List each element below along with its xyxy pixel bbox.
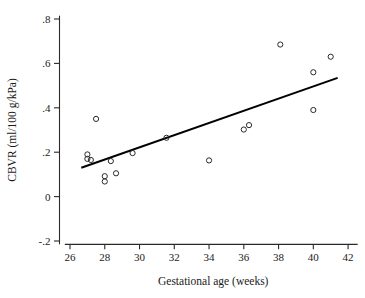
x-tick-label: 26 [65, 251, 77, 263]
x-tick-label: 42 [343, 251, 354, 263]
y-tick-label: .6 [42, 57, 51, 69]
x-tick-label: 40 [308, 251, 320, 263]
data-point [113, 171, 118, 176]
x-tick-label: 34 [204, 251, 216, 263]
x-tick-label: 28 [99, 251, 111, 263]
data-point [102, 179, 107, 184]
data-point [102, 174, 107, 179]
y-axis-title: CBVR (ml/100 g/kPa) [6, 78, 19, 182]
data-point [108, 158, 113, 163]
data-point [278, 42, 283, 47]
data-point [328, 54, 333, 59]
data-point-group [85, 42, 334, 184]
data-point [93, 116, 98, 121]
y-tick-label: .4 [42, 102, 51, 114]
chart-canvas: -.20.2.4.6.8262830323436384042Gestationa… [0, 0, 365, 298]
data-point [130, 150, 135, 155]
data-point [246, 123, 251, 128]
data-point [206, 158, 211, 163]
scatter-plot-figure: -.20.2.4.6.8262830323436384042Gestationa… [0, 0, 365, 298]
x-tick-label: 36 [238, 251, 250, 263]
data-point [88, 157, 93, 162]
y-tick-label: .2 [42, 146, 50, 158]
data-point [241, 127, 246, 132]
y-tick-label: .8 [42, 13, 51, 25]
x-tick-label: 32 [169, 251, 180, 263]
y-tick-label: -.2 [39, 235, 51, 247]
x-axis-title: Gestational age (weeks) [158, 275, 269, 288]
x-tick-label: 30 [134, 251, 146, 263]
regression-fit-line [81, 78, 337, 168]
data-point [311, 70, 316, 75]
y-tick-label: 0 [45, 191, 51, 203]
x-tick-label: 38 [273, 251, 285, 263]
data-point [311, 107, 316, 112]
